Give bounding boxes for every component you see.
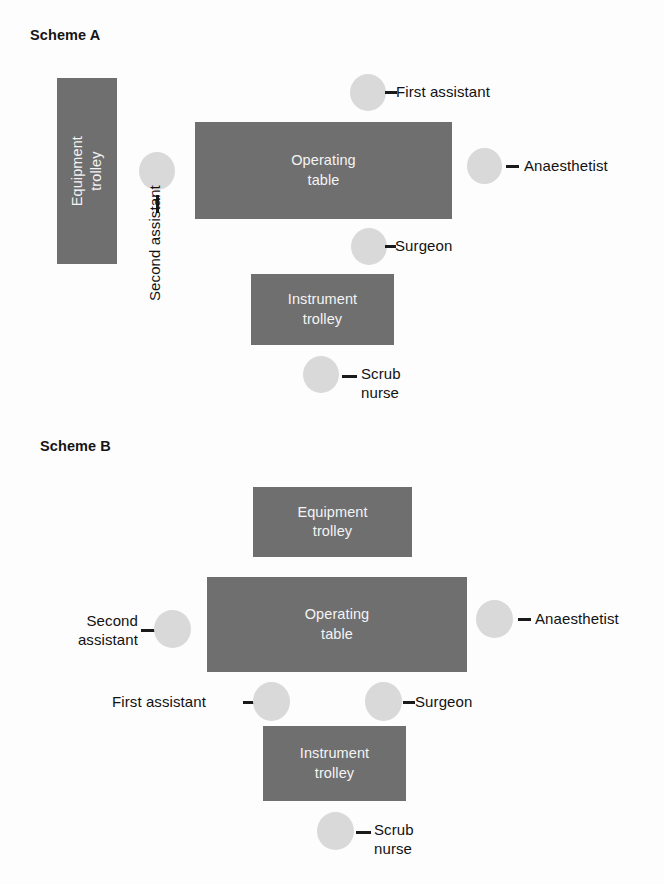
scheme-a-instrument-trolley-label: Instrument trolley	[288, 290, 358, 328]
scheme-a-equipment-trolley-box: Equipment trolley	[57, 78, 117, 264]
scheme-b-label-anaesthetist: Anaesthetist	[535, 609, 619, 628]
operating-theatre-layout-diagram: Scheme A Equipment trolley Operating tab…	[0, 0, 664, 884]
scheme-b-person-first-assistant	[253, 682, 290, 721]
scheme-a-label-second-assistant-line1: Second assistant	[143, 185, 167, 301]
scheme-a-label-scrub-nurse: Scrub nurse	[361, 364, 401, 402]
scheme-b-equipment-trolley-label: Equipment trolley	[297, 503, 367, 541]
scheme-a-label-surgeon: Surgeon	[395, 236, 452, 255]
scheme-b-person-surgeon	[365, 682, 402, 721]
scheme-b-equipment-trolley-box: Equipment trolley	[253, 487, 412, 557]
scheme-b-leader-scrub-nurse	[356, 831, 371, 834]
scheme-a-person-surgeon	[351, 228, 387, 265]
scheme-a-label-first-assistant: First assistant	[396, 82, 490, 101]
scheme-b-label-second-assistant: Second assistant	[42, 611, 138, 649]
scheme-b-operating-table-label: Operating table	[305, 605, 370, 643]
scheme-a-title: Scheme A	[30, 27, 100, 43]
scheme-b-leader-anaesthetist	[518, 618, 531, 621]
scheme-b-label-first-assistant: First assistant	[112, 692, 206, 711]
scheme-b-operating-table-box: Operating table	[207, 577, 467, 672]
scheme-b-instrument-trolley-box: Instrument trolley	[263, 726, 406, 801]
scheme-b-person-anaesthetist	[476, 600, 513, 638]
scheme-a-person-anaesthetist	[467, 148, 502, 184]
scheme-b-title: Scheme B	[40, 438, 111, 454]
scheme-a-leader-scrub-nurse	[342, 375, 357, 378]
scheme-a-operating-table-label: Operating table	[291, 151, 356, 189]
scheme-a-instrument-trolley-box: Instrument trolley	[251, 274, 394, 345]
scheme-b-label-surgeon: Surgeon	[415, 692, 472, 711]
scheme-a-person-first-assistant	[350, 74, 386, 111]
scheme-b-label-scrub-nurse: Scrub nurse	[374, 820, 414, 858]
scheme-b-person-scrub-nurse	[317, 812, 354, 850]
scheme-b-leader-second-assistant	[141, 629, 155, 632]
scheme-b-person-second-assistant	[154, 610, 191, 648]
scheme-b-instrument-trolley-label: Instrument trolley	[300, 744, 370, 782]
scheme-a-label-anaesthetist: Anaesthetist	[524, 156, 608, 175]
scheme-b-leader-surgeon	[403, 701, 415, 704]
scheme-a-person-scrub-nurse	[303, 356, 339, 393]
scheme-a-leader-anaesthetist	[506, 165, 519, 168]
scheme-a-equipment-trolley-label: Equipment trolley	[68, 136, 106, 206]
scheme-a-operating-table-box: Operating table	[195, 122, 452, 219]
